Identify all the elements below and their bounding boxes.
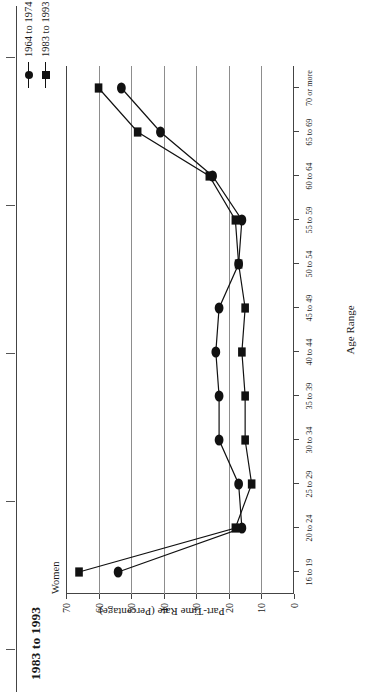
circle-marker-icon [22, 62, 35, 88]
legend-label-series-1: 1964 to 1974 [23, 2, 34, 57]
x-axis-tick-label: 20 to 24 [305, 515, 314, 542]
series-line-2 [79, 88, 252, 572]
y-axis-tick [131, 594, 132, 599]
circle-marker-icon [156, 126, 165, 137]
circle-marker-icon [117, 82, 126, 93]
square-marker-icon [95, 83, 103, 92]
x-axis-tick [294, 439, 299, 440]
x-axis-tick-label: 16 to 19 [305, 559, 314, 586]
square-marker-icon [241, 303, 249, 312]
x-axis-tick-label: 25 to 29 [305, 471, 314, 498]
y-axis-tick-label: 0 [289, 603, 300, 608]
square-marker-icon [235, 259, 243, 268]
x-axis-tick-label: 55 to 59 [305, 207, 314, 234]
x-axis-tick-label: 50 to 54 [305, 251, 314, 278]
page-rule-tick [6, 353, 15, 354]
page-rule-tick [6, 205, 15, 206]
x-axis-tick [294, 87, 299, 88]
circle-marker-icon [215, 434, 224, 445]
x-axis-tick-label: 40 to 44 [305, 339, 314, 366]
x-axis-tick-label: 35 to 39 [305, 383, 314, 410]
x-axis-tick-label: 70 or more [305, 70, 314, 106]
chart-plot: Women 010203040506070 16 to 1920 to 2425… [52, 66, 318, 594]
series-line-1 [118, 88, 242, 572]
page-rule-ticks [0, 0, 18, 698]
x-axis-tick [294, 571, 299, 572]
square-marker-icon [238, 347, 246, 356]
square-marker-icon [206, 171, 214, 180]
x-axis-tick [294, 483, 299, 484]
circle-marker-icon [234, 478, 243, 489]
y-axis-title: Part-Time Rate (Percentage) [62, 606, 262, 618]
square-marker-icon [134, 127, 142, 136]
panel-label-women: Women [50, 562, 61, 594]
x-axis-title: Age Range [344, 66, 356, 594]
square-marker-icon [75, 567, 83, 576]
page-rule-tick [6, 501, 15, 502]
square-marker-icon [232, 523, 240, 532]
y-axis-tick [196, 594, 197, 599]
circle-marker-icon [215, 390, 224, 401]
page-rule-tick [6, 57, 15, 58]
legend-label-series-2: 1983 to 1993 [40, 2, 51, 57]
x-axis-tick [294, 307, 299, 308]
x-axis-tick-label: 60 to 64 [305, 163, 314, 190]
circle-marker-icon [211, 346, 220, 357]
figure-title: 1983 to 1993 [28, 607, 44, 680]
x-axis-tick [294, 263, 299, 264]
x-axis-tick-label: 65 to 69 [305, 119, 314, 146]
square-marker-icon [248, 479, 256, 488]
chart-legend: 1964 to 1974 1983 to 1993 [22, 2, 52, 88]
circle-marker-icon [215, 302, 224, 313]
data-series-layer [66, 66, 294, 594]
x-axis-tick [294, 219, 299, 220]
x-axis-tick [294, 131, 299, 132]
x-axis-tick [294, 395, 299, 396]
y-axis-tick [99, 594, 100, 599]
legend-entry-series-2: 1983 to 1993 [39, 2, 52, 88]
page-rule-tick [6, 649, 15, 650]
y-axis-tick [229, 594, 230, 599]
legend-entry-series-1: 1964 to 1974 [22, 2, 35, 88]
y-axis-tick [164, 594, 165, 599]
y-axis-tick [66, 594, 67, 599]
square-marker-icon [241, 435, 249, 444]
x-axis-tick-label: 30 to 34 [305, 427, 314, 454]
y-axis-tick [261, 594, 262, 599]
circle-marker-icon [114, 566, 123, 577]
square-marker-icon [39, 62, 52, 88]
x-axis-tick [294, 351, 299, 352]
x-axis-tick-label: 45 to 49 [305, 295, 314, 322]
y-axis-tick [294, 594, 295, 599]
square-marker-icon [241, 391, 249, 400]
square-marker-icon [232, 215, 240, 224]
x-axis-tick [294, 527, 299, 528]
plot-axes-area: 010203040506070 16 to 1920 to 2425 to 29… [66, 66, 294, 594]
x-axis-tick [294, 175, 299, 176]
figure-stage: 1983 to 1993 1964 to 1974 1983 to 1993 W… [0, 0, 374, 698]
